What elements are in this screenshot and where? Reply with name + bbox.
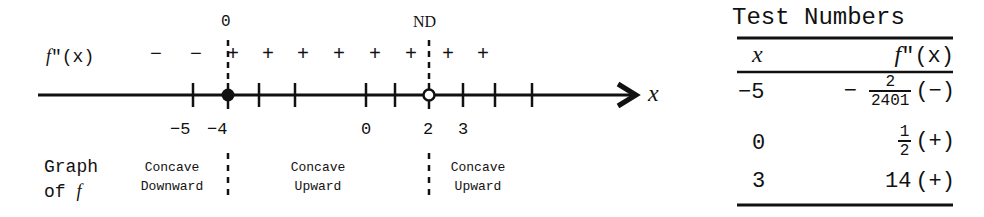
row-2-denominator: 2: [898, 140, 912, 159]
open-dot-icon: [424, 90, 435, 101]
top-label-nd: ND: [413, 13, 436, 31]
row-1-negative-sign: −: [844, 79, 857, 104]
graph-label-of: of: [44, 182, 76, 202]
row-3-number: 14: [885, 169, 911, 194]
table-row-3-x: 3: [752, 169, 765, 194]
table-title: Test Numbers: [732, 4, 905, 31]
tick-label-2: 2: [423, 120, 433, 139]
row-1-denominator: 2401: [869, 90, 911, 109]
row-2-numerator: 1: [898, 124, 912, 140]
sign-plus-4: +: [333, 43, 345, 66]
sign-plus-7: +: [442, 43, 454, 66]
graph-label-line2: of f: [44, 179, 98, 204]
graph-of-f-label: Graph of f: [44, 155, 98, 204]
interval-2-line1: Concave: [270, 158, 366, 177]
table-header-x: x: [752, 41, 763, 68]
row-1-fraction: 22401: [869, 74, 911, 109]
interval-3-line1: Concave: [430, 158, 526, 177]
sign-plus-2: +: [262, 43, 274, 66]
row-3-sign: (+): [915, 169, 955, 194]
tick-label-minus4: −4: [207, 120, 227, 139]
sign-plus-8: +: [477, 43, 489, 66]
sign-plus-1: +: [227, 43, 239, 66]
table-row-1-value: − 22401 (−): [820, 74, 955, 109]
table-header-fpp: f"(x): [872, 41, 954, 69]
axis-label-x: x: [648, 80, 659, 107]
row-1-numerator: 2: [883, 74, 897, 90]
sign-plus-5: +: [369, 43, 381, 66]
interval-3-line2: Upward: [430, 177, 526, 196]
table-row-2-value: 12 (+): [820, 124, 955, 159]
interval-1-line1: Concave: [124, 158, 220, 177]
row-1-sign: (−): [915, 79, 955, 104]
sign-minus-1: −: [150, 43, 162, 66]
interval-concave-upward-1: Concave Upward: [270, 158, 366, 196]
sign-plus-3: +: [297, 43, 309, 66]
graph-label-line1: Graph: [44, 155, 98, 179]
row-2-fraction: 12: [898, 124, 912, 159]
closed-dot-icon: [222, 89, 235, 102]
table-row-1-x: −5: [738, 80, 764, 105]
top-label-zero: 0: [221, 13, 231, 31]
interval-1-line2: Downward: [124, 177, 220, 196]
table-row-3-value: 14 (+): [820, 169, 955, 194]
tick-label-3: 3: [458, 120, 468, 139]
sign-plus-6: +: [405, 43, 417, 66]
header-fpp-suffix: "(x): [901, 44, 954, 69]
interval-2-line2: Upward: [270, 177, 366, 196]
second-derivative-row-label: f"(x): [46, 46, 94, 67]
interval-concave-downward: Concave Downward: [124, 158, 220, 196]
f-symbol-graph: f: [76, 181, 81, 201]
interval-concave-upward-2: Concave Upward: [430, 158, 526, 196]
tick-label-0: 0: [361, 120, 371, 139]
derivative-suffix: "(x): [51, 47, 94, 67]
row-2-sign: (+): [915, 129, 955, 154]
tick-label-minus5: −5: [170, 120, 190, 139]
table-row-2-x: 0: [752, 131, 765, 156]
sign-minus-2: −: [190, 43, 202, 66]
